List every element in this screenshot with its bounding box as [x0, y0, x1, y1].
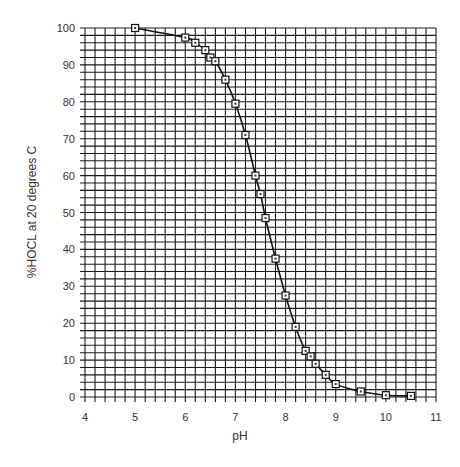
y-tick-label: 0 [69, 391, 75, 403]
y-tick-label: 80 [63, 96, 75, 108]
x-tick-label: 5 [132, 411, 138, 423]
data-markers [132, 25, 415, 400]
data-point-center [310, 355, 312, 357]
data-point-center [315, 363, 317, 365]
y-tick-label: 90 [63, 59, 75, 71]
x-axis-title: pH [232, 429, 247, 443]
x-tick-label: 9 [333, 411, 339, 423]
data-point-center [410, 395, 412, 397]
y-tick-label: 40 [63, 243, 75, 255]
y-axis-title: %HOCL at 20 degrees C [25, 146, 39, 279]
y-axis-tick-labels: 0102030405060708090100 [57, 22, 75, 403]
grid-lines [80, 28, 436, 402]
data-point-center [305, 350, 307, 352]
y-tick-label: 10 [63, 354, 75, 366]
data-point-center [209, 57, 211, 59]
data-point-center [335, 383, 337, 385]
x-tick-label: 11 [430, 411, 441, 423]
data-point-center [184, 37, 186, 39]
y-tick-label: 50 [63, 207, 75, 219]
data-point-center [204, 49, 206, 51]
x-tick-label: 8 [283, 411, 289, 423]
x-tick-label: 10 [380, 411, 392, 423]
data-point-center [360, 390, 362, 392]
data-point-center [260, 193, 262, 195]
x-tick-label: 6 [182, 411, 188, 423]
y-tick-label: 100 [57, 22, 75, 34]
data-point-center [244, 134, 246, 136]
data-point-center [295, 326, 297, 328]
data-point-center [265, 217, 267, 219]
y-tick-label: 70 [63, 133, 75, 145]
data-point-center [254, 175, 256, 177]
data-point-center [285, 295, 287, 297]
data-point-center [134, 27, 136, 29]
data-point-center [214, 60, 216, 62]
ph-hocl-chart: 0102030405060708090100 4567891011 pH %HO… [0, 0, 460, 467]
x-tick-label: 7 [232, 411, 238, 423]
x-tick-label: 4 [82, 411, 88, 423]
y-tick-label: 20 [63, 317, 75, 329]
y-tick-label: 60 [63, 170, 75, 182]
data-point-center [275, 258, 277, 260]
data-point-center [385, 394, 387, 396]
data-point-center [224, 79, 226, 81]
data-point-center [234, 103, 236, 105]
y-tick-label: 30 [63, 280, 75, 292]
data-point-center [325, 374, 327, 376]
data-point-center [194, 42, 196, 44]
x-axis-tick-labels: 4567891011 [82, 411, 442, 423]
